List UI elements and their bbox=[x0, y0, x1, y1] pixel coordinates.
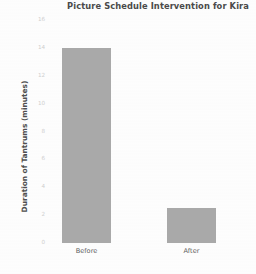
bar-before bbox=[62, 48, 111, 243]
y-axis-tick-label: 8 bbox=[32, 129, 45, 135]
bar-after bbox=[167, 208, 216, 243]
plot-area: 0246810121416 BeforeAfter bbox=[46, 20, 256, 243]
y-axis-title: Duration of Tantrums (minutes) bbox=[20, 57, 29, 237]
y-axis-tick-label: 0 bbox=[32, 240, 45, 246]
y-axis-tick-label: 10 bbox=[32, 101, 45, 107]
y-axis-tick-label: 4 bbox=[32, 184, 45, 190]
chart-title: Picture Schedule Intervention for Kira bbox=[62, 1, 254, 11]
y-axis-tick-label: 2 bbox=[32, 212, 45, 218]
y-axis-tick-label: 14 bbox=[32, 45, 45, 51]
x-axis-tick-label-before: Before bbox=[57, 247, 117, 255]
x-axis-tick-label-after: After bbox=[162, 247, 222, 255]
y-axis-tick-label: 6 bbox=[32, 157, 45, 163]
y-axis-tick-label: 12 bbox=[32, 73, 45, 79]
y-axis-tick-label: 16 bbox=[32, 17, 45, 23]
bar-chart-figure: Picture Schedule Intervention for Kira D… bbox=[0, 0, 256, 274]
